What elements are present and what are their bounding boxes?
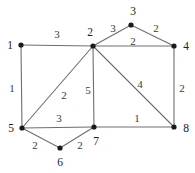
node-label: 4	[183, 41, 189, 52]
edge-weight-label: 3	[110, 23, 116, 34]
node-label: 2	[87, 27, 93, 38]
graph-edge	[22, 127, 94, 128]
edge-weight-label: 1	[134, 113, 140, 124]
graph-canvas	[0, 0, 195, 173]
node-label: 7	[93, 136, 99, 147]
weighted-graph-figure: 332212542322112345678	[0, 0, 195, 173]
edge-weight-label: 2	[130, 36, 136, 47]
node-label: 6	[57, 157, 63, 168]
edge-weight-label: 1	[9, 83, 15, 94]
graph-node	[90, 43, 95, 48]
graph-edge	[22, 128, 60, 148]
graph-node	[171, 43, 176, 48]
graph-edge	[21, 45, 93, 46]
edge-layer	[21, 25, 174, 148]
graph-node	[19, 125, 24, 130]
node-label: 1	[7, 40, 13, 51]
edge-weight-label: 2	[77, 140, 83, 151]
graph-edge	[21, 45, 22, 128]
graph-node	[91, 124, 96, 129]
edge-weight-label: 2	[153, 23, 159, 34]
graph-node	[57, 145, 62, 150]
node-label: 8	[183, 123, 189, 134]
edge-weight-label: 3	[54, 29, 60, 40]
edge-weight-label: 5	[85, 85, 91, 96]
edge-weight-label: 2	[61, 90, 67, 101]
graph-node	[128, 22, 133, 27]
edge-weight-label: 3	[56, 113, 62, 124]
graph-node	[18, 42, 23, 47]
edge-weight-label: 4	[137, 79, 143, 90]
graph-node	[171, 124, 176, 129]
node-label: 3	[130, 6, 136, 17]
edge-weight-label: 2	[179, 83, 185, 94]
edge-weight-label: 2	[32, 140, 38, 151]
graph-edge	[93, 46, 94, 127]
node-label: 5	[8, 123, 14, 134]
node-layer	[18, 22, 176, 150]
